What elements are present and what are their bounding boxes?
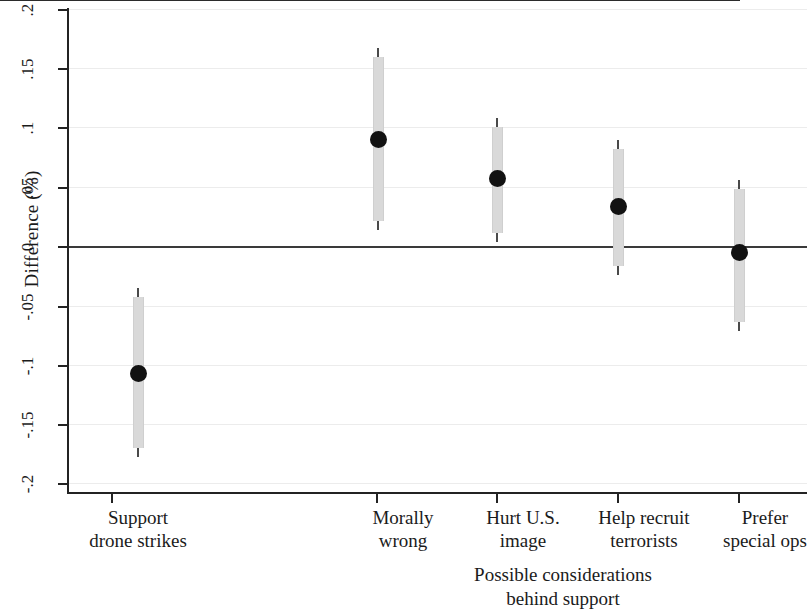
y-tick-label: .2 (18, 0, 38, 40)
x-axis-title: Possible considerations behind support (383, 563, 743, 611)
gridline (69, 187, 807, 188)
point-estimate-dot (130, 365, 147, 382)
point-estimate-dot (489, 170, 506, 187)
y-tick-label: -.05 (18, 277, 38, 337)
gridline (69, 68, 807, 69)
y-tick-mark (58, 68, 68, 70)
y-tick-mark (58, 365, 68, 367)
x-tick-mark (617, 494, 619, 503)
y-tick-label: .1 (18, 98, 38, 158)
gridline (69, 9, 807, 10)
y-tick-mark (58, 246, 68, 248)
x-tick-mark (111, 494, 113, 503)
y-tick-label: -.2 (18, 454, 38, 514)
y-tick-mark (58, 483, 68, 485)
y-axis-line (67, 8, 69, 494)
y-tick-label: .05 (18, 158, 38, 218)
y-tick-label: -.15 (18, 395, 38, 455)
gridline (69, 424, 807, 425)
x-tick-label-support-drone-strikes: Support drone strikes (43, 506, 233, 552)
y-tick-label: 0 (18, 217, 38, 277)
x-axis-line (67, 492, 807, 494)
x-tick-mark (376, 494, 378, 503)
x-tick-label-prefer-special-ops: Prefer special ops (670, 506, 807, 552)
y-tick-label: -.1 (18, 336, 38, 396)
gridline (69, 127, 807, 128)
gridline (69, 483, 807, 484)
y-tick-label: .15 (18, 39, 38, 99)
x-tick-mark (738, 494, 740, 503)
gridline (69, 365, 807, 366)
point-estimate-dot (370, 131, 387, 148)
gridline (69, 306, 807, 307)
plot-top-border (0, 0, 740, 1)
y-tick-mark (58, 9, 68, 11)
difference-point-estimate-chart: Difference (%) .2 .15 .1 .05 0 -.05 -.1 … (0, 0, 807, 615)
y-tick-mark (58, 306, 68, 308)
point-estimate-dot (610, 198, 627, 215)
y-tick-mark (58, 424, 68, 426)
y-tick-mark (58, 127, 68, 129)
zero-reference-line (69, 246, 807, 248)
point-estimate-dot (731, 244, 748, 261)
y-tick-mark (58, 187, 68, 189)
x-tick-mark (496, 494, 498, 503)
